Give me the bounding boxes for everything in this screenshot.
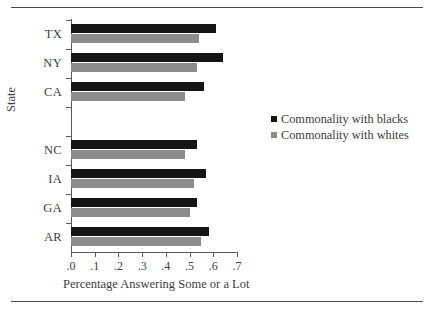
- bar-AR-blacks: [71, 227, 209, 236]
- y-axis-label: IA: [48, 173, 62, 186]
- x-tick: [142, 252, 143, 257]
- legend-item-whites: Commonality with whites: [271, 128, 409, 142]
- bar-NC-blacks: [71, 140, 197, 149]
- bar-group: [71, 107, 237, 136]
- y-axis-label: TX: [45, 28, 62, 41]
- plot-area: TXNYCANCIAGAAR: [71, 20, 237, 252]
- bottom-rule: [11, 301, 423, 302]
- x-axis-label: .7: [233, 259, 242, 274]
- x-tick: [118, 252, 119, 257]
- y-axis-label: GA: [43, 202, 62, 215]
- bar-IA-whites: [71, 179, 194, 188]
- x-tick: [71, 252, 72, 257]
- x-axis-label: .4: [161, 259, 170, 274]
- x-tick: [166, 252, 167, 257]
- y-tick: [66, 136, 71, 137]
- legend-label-whites: Commonality with whites: [281, 128, 409, 142]
- x-axis-title: Percentage Answering Some or a Lot: [63, 277, 230, 292]
- x-axis-label: .3: [138, 259, 147, 274]
- bar-CA-blacks: [71, 82, 204, 91]
- y-tick: [66, 20, 71, 21]
- x-axis-label: .1: [90, 259, 99, 274]
- bar-CA-whites: [71, 92, 185, 101]
- bar-group: NY: [71, 49, 237, 78]
- bar-group: AR: [71, 223, 237, 252]
- bar-NC-whites: [71, 150, 185, 159]
- bar-NY-blacks: [71, 53, 223, 62]
- y-axis-label: NC: [44, 144, 62, 157]
- x-tick: [213, 252, 214, 257]
- bar-GA-blacks: [71, 198, 197, 207]
- bar-NY-whites: [71, 63, 197, 72]
- y-axis-label: NY: [43, 57, 62, 70]
- x-tick: [237, 252, 238, 257]
- legend: Commonality with blacks Commonality with…: [271, 112, 409, 144]
- bar-group: TX: [71, 20, 237, 49]
- x-axis-label: .0: [67, 259, 76, 274]
- y-tick: [66, 107, 71, 108]
- bar-GA-whites: [71, 208, 190, 217]
- bar-group: NC: [71, 136, 237, 165]
- bar-TX-whites: [71, 34, 199, 43]
- legend-swatch-blacks: [271, 116, 277, 122]
- y-tick: [66, 194, 71, 195]
- x-tick: [95, 252, 96, 257]
- bar-group: IA: [71, 165, 237, 194]
- y-axis-title: State: [4, 87, 19, 112]
- top-rule: [11, 7, 423, 8]
- legend-item-blacks: Commonality with blacks: [271, 112, 409, 126]
- y-tick: [66, 223, 71, 224]
- bar-AR-whites: [71, 237, 201, 246]
- bar-IA-blacks: [71, 169, 206, 178]
- bar-TX-blacks: [71, 24, 216, 33]
- bar-group: CA: [71, 78, 237, 107]
- y-tick: [66, 49, 71, 50]
- legend-label-blacks: Commonality with blacks: [281, 112, 408, 126]
- y-tick: [66, 165, 71, 166]
- figure-container: TXNYCANCIAGAAR State Percentage Answerin…: [0, 0, 434, 314]
- x-axis-label: .6: [209, 259, 218, 274]
- bar-group: GA: [71, 194, 237, 223]
- x-axis-label: .2: [114, 259, 123, 274]
- y-axis-label: AR: [44, 231, 62, 244]
- x-axis-label: .5: [185, 259, 194, 274]
- legend-swatch-whites: [271, 132, 277, 138]
- x-tick: [190, 252, 191, 257]
- y-axis-label: CA: [44, 86, 62, 99]
- y-tick: [66, 78, 71, 79]
